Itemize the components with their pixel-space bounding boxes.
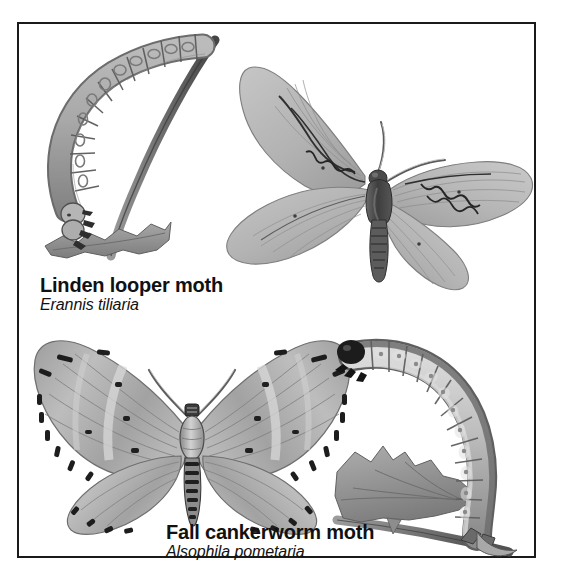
- linden-looper-adult-figure: [205, 44, 545, 314]
- linden-looper-label: Linden looper moth Erannis tiliaria: [40, 274, 223, 314]
- fall-cankerworm-common-name: Fall cankerworm moth: [166, 521, 374, 543]
- left-hindwing: [227, 187, 369, 264]
- illustration-plate: Linden looper moth Erannis tiliaria: [17, 22, 536, 558]
- fall-cankerworm-moth-drawing: [27, 320, 357, 550]
- left-forewing: [240, 67, 365, 194]
- fall-cankerworm-scientific-name: Alsophila pometaria: [166, 543, 374, 561]
- larva-body: [60, 34, 205, 250]
- linden-looper-scientific-name: Erannis tiliaria: [40, 296, 223, 314]
- fall-cankerworm-adult-figure: [27, 320, 357, 550]
- linden-looper-common-name: Linden looper moth: [40, 274, 223, 296]
- fall-cankerworm-label: Fall cankerworm moth Alsophila pometaria: [166, 521, 374, 561]
- linden-looper-moth-drawing: [205, 44, 545, 314]
